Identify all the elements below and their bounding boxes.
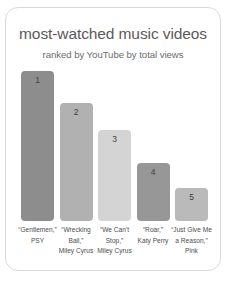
bar-category-label-line: “Wrecking	[54, 225, 98, 236]
bar-rank-label: 3	[98, 134, 131, 144]
bar-category-label: “Roar,”Katy Perry	[131, 225, 175, 246]
bar-category-label: “WreckingBall,”Miley Cyrus	[54, 225, 98, 257]
bar-rank-label: 1	[21, 75, 54, 85]
bar-rank-label: 2	[60, 107, 93, 117]
bar-category-label-line: Miley Cyrus	[54, 246, 98, 257]
bar-column[interactable]: 1	[21, 64, 54, 221]
page-title: most-watched music videos	[6, 25, 220, 43]
chart-card: most-watched music videos ranked by YouT…	[5, 7, 221, 271]
bar-category-label-line: Katy Perry	[131, 236, 175, 247]
bar-column[interactable]: 4	[137, 64, 170, 221]
bar-column[interactable]: 5	[175, 64, 208, 221]
bar[interactable]	[60, 103, 93, 221]
bar-category-label: “Just Give Mea Reason,”Pink	[170, 225, 214, 257]
bar-category-label: “We Can'tStop,”Miley Cyrus	[93, 225, 137, 257]
bar-rank-label: 4	[137, 167, 170, 177]
bar-column[interactable]: 2	[60, 64, 93, 221]
bar[interactable]	[21, 71, 54, 221]
bar-category-label-line: Stop,”	[93, 236, 137, 247]
bar-chart-plot: 12345	[18, 64, 210, 221]
bar-category-label-line: “Roar,”	[131, 225, 175, 236]
bar-column[interactable]: 3	[98, 64, 131, 221]
bar-category-label-line: a Reason,”	[170, 236, 214, 247]
bar-category-label: “Gentlemen,”PSY	[16, 225, 60, 246]
bar-category-label-line: “We Can't	[93, 225, 137, 236]
bar-category-label-line: “Just Give Me	[170, 225, 214, 236]
chart-subtitle: ranked by YouTube by total views	[6, 49, 220, 60]
bar-category-label-line: Pink	[170, 246, 214, 257]
bar-chart-labels: “Gentlemen,”PSY“WreckingBall,”Miley Cyru…	[18, 225, 210, 271]
bar-category-label-line: Miley Cyrus	[93, 246, 137, 257]
bar-category-label-line: PSY	[16, 236, 60, 247]
bar-category-label-line: Ball,”	[54, 236, 98, 247]
bar-category-label-line: “Gentlemen,”	[16, 225, 60, 236]
bar-rank-label: 5	[175, 192, 208, 202]
